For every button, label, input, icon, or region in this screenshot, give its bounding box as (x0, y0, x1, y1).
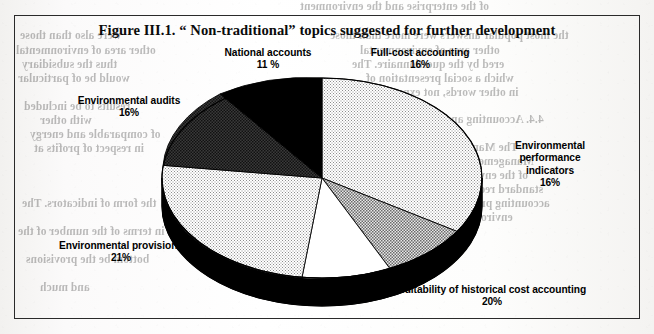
label-epi-line3: indicators (490, 165, 610, 177)
label-national-accounts-text: National accounts (225, 47, 312, 58)
label-epi-line2: performance (490, 152, 610, 164)
label-full-cost-accounting-text: Full-cost accounting (371, 47, 470, 58)
label-environmental-audits-value: 16% (64, 107, 194, 119)
label-epi-line1: Environmental (490, 140, 610, 152)
label-full-cost-accounting-value: 16% (355, 59, 485, 71)
label-suitability-value: 20% (377, 296, 607, 308)
scanned-page-background: of the enterprise and the environment th… (0, 0, 654, 334)
label-environmental-provisions: Environmental provisions 21% (46, 240, 196, 265)
label-national-accounts: National accounts 11 % (203, 47, 333, 72)
label-epi-value: 16% (490, 177, 610, 189)
label-national-accounts-value: 11 % (203, 59, 333, 71)
label-environmental-audits: Environmental audits 16% (64, 95, 194, 120)
label-environmental-performance-indicators: Environmental performance indicators 16% (490, 140, 610, 190)
label-full-cost-accounting: Full-cost accounting 16% (355, 47, 485, 72)
label-environmental-audits-text: Environmental audits (78, 95, 181, 106)
label-suitability-text: Suitability of historical cost accountin… (398, 284, 586, 295)
label-environmental-provisions-text: Environmental provisions (59, 240, 183, 251)
label-environmental-provisions-value: 21% (46, 252, 196, 264)
label-suitability-of-historical-cost-accounting: Suitability of historical cost accountin… (377, 284, 607, 309)
